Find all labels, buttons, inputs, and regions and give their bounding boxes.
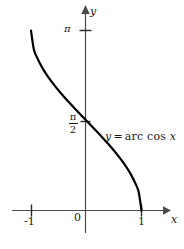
y-tick-label-pi: π bbox=[64, 24, 71, 34]
x-axis-label: x bbox=[171, 214, 177, 225]
pi-half-denominator: 2 bbox=[66, 125, 80, 135]
equation-function-name: arc cos bbox=[125, 130, 166, 143]
x-axis-arrowhead bbox=[163, 206, 171, 214]
plot-canvas bbox=[0, 0, 184, 249]
arccos-curve bbox=[31, 31, 142, 211]
equation-equals-sign: = bbox=[111, 130, 124, 143]
x-tick-label-neg-one: -1 bbox=[24, 216, 35, 227]
equation-annotation: y=arc cos x bbox=[105, 131, 176, 142]
equation-x-symbol: x bbox=[170, 130, 176, 143]
x-tick-label-zero: 0 bbox=[74, 212, 81, 223]
y-axis-arrowhead bbox=[81, 5, 89, 14]
y-axis-label: y bbox=[90, 6, 96, 17]
arccos-figure: y x π π 2 -1 0 1 y=arc cos x bbox=[0, 0, 184, 249]
y-tick-label-pi-half: π 2 bbox=[66, 112, 80, 135]
pi-half-numerator: π bbox=[66, 112, 80, 122]
x-tick-label-one: 1 bbox=[138, 216, 145, 227]
